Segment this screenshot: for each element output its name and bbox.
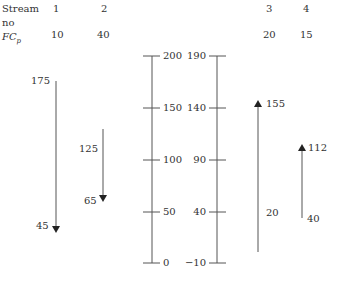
hot-tick-100: 100 bbox=[163, 154, 182, 166]
stream-1-supply-temp: 175 bbox=[31, 75, 50, 87]
stream-4-target-temp: 112 bbox=[308, 142, 327, 154]
cold-tick-minus10: −10 bbox=[185, 257, 206, 269]
arrowhead-up-icon bbox=[254, 100, 262, 107]
hot-tick-200: 200 bbox=[163, 50, 182, 62]
stream-3-target-temp: 155 bbox=[266, 98, 285, 110]
cold-tick-90: 90 bbox=[193, 154, 206, 166]
stream-1-target-temp: 45 bbox=[36, 220, 49, 232]
arrowhead-down-icon bbox=[52, 226, 60, 233]
cold-tick-140: 140 bbox=[187, 102, 206, 114]
hot-tick-50: 50 bbox=[163, 206, 176, 218]
stream-4-supply-temp: 40 bbox=[307, 213, 320, 225]
stream-3-supply-temp: 20 bbox=[266, 207, 279, 219]
cold-tick-40: 40 bbox=[193, 206, 206, 218]
hot-tick-0: 0 bbox=[163, 257, 169, 269]
arrowhead-up-icon bbox=[298, 144, 306, 151]
stream-2-supply-temp: 125 bbox=[79, 143, 98, 155]
arrowhead-down-icon bbox=[99, 195, 107, 202]
cold-tick-190: 190 bbox=[187, 50, 206, 62]
hot-tick-150: 150 bbox=[163, 102, 182, 114]
stream-2-target-temp: 65 bbox=[84, 195, 97, 207]
diagram-lines bbox=[0, 0, 339, 282]
